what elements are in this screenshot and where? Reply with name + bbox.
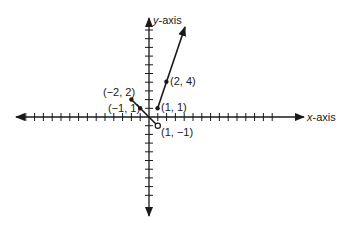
x-axis-label: x-axis <box>306 111 336 123</box>
x-axis <box>16 113 304 121</box>
label-neg1-1: (−1, 1) <box>108 102 140 114</box>
coordinate-graph: x-axis y-axis (−2, 2) (−1, 1) (1, −1) (1… <box>0 0 349 230</box>
label-2-4: (2, 4) <box>170 75 196 87</box>
point-1-1 <box>155 106 159 110</box>
point-2-4 <box>164 80 168 84</box>
label-neg2-2: (−2, 2) <box>103 86 135 98</box>
open-point-1-neg1 <box>155 123 160 128</box>
right-ray <box>158 27 185 108</box>
label-1-neg1: (1, −1) <box>161 126 193 138</box>
y-axis-label: y-axis <box>152 14 182 26</box>
label-1-1: (1, 1) <box>161 101 187 113</box>
